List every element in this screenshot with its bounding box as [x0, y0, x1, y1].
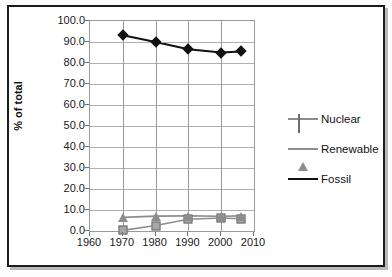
legend-item-nuclear[interactable]: Nuclear [288, 104, 384, 134]
y-tick-mark [85, 167, 89, 168]
data-point-renewable [150, 210, 162, 222]
series-lines [90, 21, 256, 233]
gridline-horizontal [90, 189, 254, 190]
x-tick-label: 2010 [241, 236, 265, 248]
gridline-horizontal [90, 168, 254, 169]
y-tick-label: 60.0 [64, 99, 85, 110]
data-point-fossil [150, 36, 162, 48]
gridline-vertical [123, 21, 124, 231]
legend-line [288, 178, 318, 180]
y-tick-label: 40.0 [64, 141, 85, 152]
data-point-renewable [235, 210, 247, 222]
legend-item-fossil[interactable]: Fossil [288, 164, 384, 194]
y-tick-mark [85, 146, 89, 147]
legend-line [288, 118, 318, 120]
legend-item-renewable[interactable]: Renewable [288, 134, 384, 164]
x-tick-label: 1980 [142, 236, 166, 248]
data-point-renewable [182, 210, 194, 222]
y-tick-label: 50.0 [64, 120, 85, 131]
chart-plot-container: % of total 0.010.020.030.040.050.060.070… [0, 0, 392, 277]
x-tick-mark [253, 232, 254, 236]
y-tick-label: 90.0 [64, 36, 85, 47]
y-axis-tick-labels: 0.010.020.030.040.050.060.070.080.090.01… [38, 20, 85, 232]
y-tick-mark [85, 41, 89, 42]
legend-key-nuclear [288, 112, 318, 126]
x-tick-mark [155, 232, 156, 236]
y-tick-label: 70.0 [64, 78, 85, 89]
x-axis-tick-labels: 196019701980199020002010 [0, 234, 392, 254]
y-tick-label: 10.0 [64, 204, 85, 215]
y-axis-title: % of total [12, 66, 24, 146]
x-tick-mark [122, 232, 123, 236]
gridline-horizontal [90, 126, 254, 127]
legend-key-fossil [288, 172, 318, 186]
square-marker-icon [298, 115, 300, 133]
data-point-fossil [182, 43, 194, 55]
y-tick-mark [85, 209, 89, 210]
x-tick-label: 1970 [110, 236, 134, 248]
gridline-horizontal [90, 63, 254, 64]
gridline-horizontal [90, 42, 254, 43]
triangle-marker-icon [298, 145, 308, 163]
gridline-horizontal [90, 210, 254, 211]
chart-figure: % of total 0.010.020.030.040.050.060.070… [0, 0, 392, 277]
y-tick-mark [85, 104, 89, 105]
legend-label-fossil: Fossil [321, 173, 351, 185]
y-tick-label: 100.0 [57, 15, 85, 26]
y-tick-mark [85, 62, 89, 63]
y-tick-label: 20.0 [64, 183, 85, 194]
legend-key-renewable [288, 142, 318, 156]
gridline-horizontal [90, 105, 254, 106]
data-point-fossil [117, 29, 129, 41]
data-point-fossil [215, 47, 227, 59]
x-tick-label: 1990 [175, 236, 199, 248]
chart-legend: Nuclear Renewable Fossil [288, 104, 384, 194]
y-tick-label: 30.0 [64, 162, 85, 173]
x-tick-mark [89, 232, 90, 236]
y-tick-mark [85, 20, 89, 21]
gridline-horizontal [90, 147, 254, 148]
x-tick-label: 1960 [77, 236, 101, 248]
y-tick-mark [85, 188, 89, 189]
y-tick-mark [85, 125, 89, 126]
legend-label-renewable: Renewable [321, 143, 379, 155]
gridline-vertical [156, 21, 157, 231]
x-tick-mark [187, 232, 188, 236]
y-tick-label: 80.0 [64, 57, 85, 68]
y-tick-mark [85, 230, 89, 231]
plot-area [89, 20, 255, 232]
x-tick-mark [220, 232, 221, 236]
data-point-fossil [235, 45, 247, 57]
legend-label-nuclear: Nuclear [321, 113, 361, 125]
gridline-horizontal [90, 84, 254, 85]
x-tick-label: 2000 [208, 236, 232, 248]
data-point-renewable [215, 210, 227, 222]
data-point-renewable [117, 211, 129, 223]
y-tick-mark [85, 83, 89, 84]
